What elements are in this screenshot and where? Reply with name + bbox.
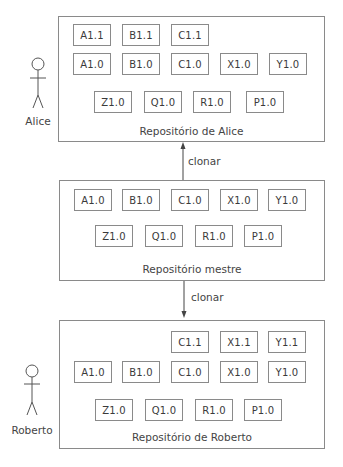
alice-repository: A1.1 B1.1 C1.1 A1.0 B1.0 C1.0 X1.0 Y1.0 … [58, 16, 325, 142]
version-item: P1.0 [246, 91, 284, 113]
version-item: P1.0 [244, 225, 282, 247]
clone-arrow-label: clonar [191, 291, 224, 303]
version-item: B1.0 [122, 361, 160, 383]
version-item: R1.0 [193, 91, 231, 113]
version-item: Z1.0 [95, 399, 133, 421]
repository-label: Repositório mestre [60, 263, 324, 275]
roberto-actor-label: Roberto [8, 424, 56, 436]
version-item: C1.0 [171, 189, 209, 211]
clone-arrow-label: clonar [188, 155, 221, 167]
version-item: X1.1 [220, 331, 258, 353]
version-item: A1.0 [74, 189, 112, 211]
version-item: A1.0 [73, 53, 111, 75]
version-item: Y1.0 [268, 189, 306, 211]
version-item: B1.0 [122, 189, 160, 211]
roberto-repository: C1.1 X1.1 Y1.1 A1.0 B1.0 C1.0 X1.0 Y1.0 … [59, 320, 325, 449]
version-item: A1.0 [74, 361, 112, 383]
repository-label: Repositório de Roberto [60, 431, 324, 443]
version-item: A1.1 [73, 24, 111, 46]
version-item: Z1.0 [94, 91, 132, 113]
version-item: B1.1 [122, 24, 160, 46]
version-item: C1.0 [171, 53, 209, 75]
version-item: C1.1 [171, 24, 209, 46]
master-repository: A1.0 B1.0 C1.0 X1.0 Y1.0 Z1.0 Q1.0 R1.0 … [59, 180, 325, 281]
version-item: R1.0 [195, 225, 233, 247]
version-item: R1.0 [195, 399, 233, 421]
version-item: B1.0 [122, 53, 160, 75]
version-item: C1.0 [171, 361, 209, 383]
repository-label: Repositório de Alice [59, 125, 324, 137]
version-item: Y1.1 [268, 331, 306, 353]
alice-stick-figure-icon [30, 58, 46, 108]
version-item: Q1.0 [144, 91, 182, 113]
version-item: Y1.0 [269, 53, 307, 75]
version-item: Q1.0 [145, 399, 183, 421]
version-item: P1.0 [244, 399, 282, 421]
version-item: Z1.0 [95, 225, 133, 247]
version-item: Q1.0 [145, 225, 183, 247]
alice-actor-label: Alice [20, 115, 56, 127]
version-item: X1.0 [220, 53, 258, 75]
roberto-stick-figure-icon [24, 365, 40, 415]
version-item: X1.0 [220, 361, 258, 383]
version-item: X1.0 [220, 189, 258, 211]
clone-arrow-up-icon [181, 142, 186, 180]
clone-arrow-down-icon [182, 280, 187, 318]
version-item: Y1.0 [268, 361, 306, 383]
version-item: C1.1 [171, 331, 209, 353]
